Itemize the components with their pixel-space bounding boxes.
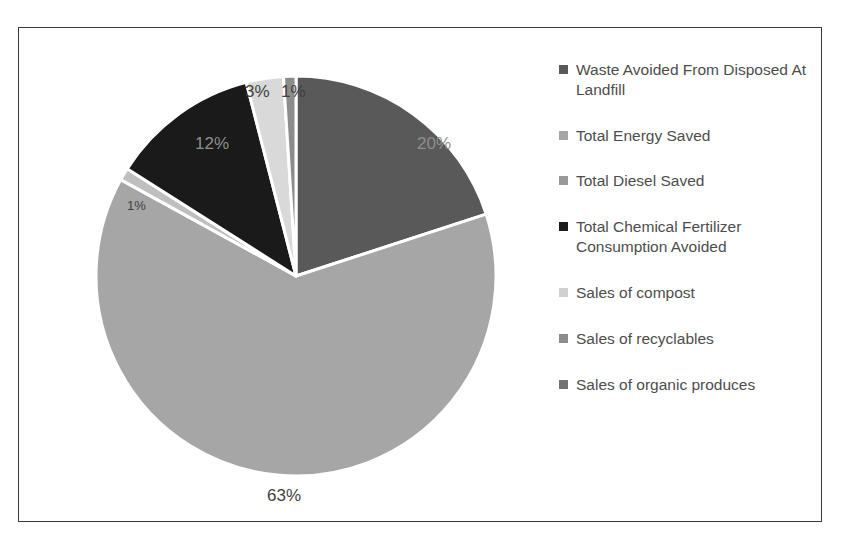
legend-label: Total Diesel Saved	[576, 171, 704, 191]
legend-item-total-diesel-saved[interactable]: Total Diesel Saved	[559, 171, 811, 191]
legend-swatch-icon	[559, 131, 568, 140]
legend-item-total-chemical-fertilizer[interactable]: Total Chemical Fertilizer Consumption Av…	[559, 217, 811, 257]
legend-label: Total Energy Saved	[576, 126, 710, 146]
pie-label-sales-of-recyclables: 1%	[281, 82, 306, 102]
legend-label: Sales of organic produces	[576, 375, 755, 395]
pie-label-waste-avoided-from-disposed-at-landfill: 20%	[417, 134, 451, 154]
chart-frame: 20%63%1%12%3%1% Waste Avoided From Dispo…	[18, 27, 822, 522]
pie-chart-plot-area: 20%63%1%12%3%1%	[19, 28, 549, 520]
legend-item-sales-of-compost[interactable]: Sales of compost	[559, 283, 811, 303]
legend-label: Sales of compost	[576, 283, 695, 303]
legend-item-total-energy-saved[interactable]: Total Energy Saved	[559, 126, 811, 146]
pie-label-total-diesel-saved: 1%	[127, 198, 146, 213]
legend-swatch-icon	[559, 380, 568, 389]
chart-legend: Waste Avoided From Disposed At LandfillT…	[559, 60, 811, 420]
legend-swatch-icon	[559, 288, 568, 297]
legend-swatch-icon	[559, 334, 568, 343]
pie-label-total-chemical-fertilizer-consumption-avoided: 12%	[195, 134, 229, 154]
legend-swatch-icon	[559, 65, 568, 74]
legend-item-sales-of-recyclables[interactable]: Sales of recyclables	[559, 329, 811, 349]
legend-swatch-icon	[559, 222, 568, 231]
legend-label: Sales of recyclables	[576, 329, 714, 349]
pie-label-sales-of-compost: 3%	[245, 82, 270, 102]
legend-label: Waste Avoided From Disposed At Landfill	[576, 60, 811, 100]
legend-swatch-icon	[559, 176, 568, 185]
pie-label-total-energy-saved: 63%	[267, 486, 301, 506]
legend-label: Total Chemical Fertilizer Consumption Av…	[576, 217, 811, 257]
legend-item-waste-avoided[interactable]: Waste Avoided From Disposed At Landfill	[559, 60, 811, 100]
legend-item-sales-of-organic-produces[interactable]: Sales of organic produces	[559, 375, 811, 395]
